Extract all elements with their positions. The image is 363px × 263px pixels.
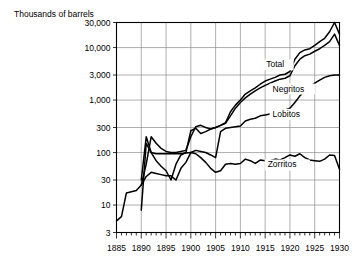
x-tick-label: 1910 (231, 243, 250, 253)
chart-canvas: Thousands of barrels 310301003001,0003,0… (0, 0, 363, 263)
y-tick-label: 10,000 (85, 43, 111, 53)
chart-background (0, 0, 363, 263)
x-tick-label: 1895 (157, 243, 176, 253)
series-label-zorritos: Zorritos (268, 159, 297, 169)
y-tick-label: 3 (106, 228, 111, 238)
x-tick-label: 1925 (305, 243, 324, 253)
x-tick-label: 1905 (206, 243, 225, 253)
x-tick-label: 1885 (107, 243, 126, 253)
chart-axis-title: Thousands of barrels (14, 9, 94, 19)
y-tick-label: 1,000 (89, 95, 111, 105)
series-label-lobitos: Lobitos (273, 109, 300, 119)
x-tick-label: 1930 (330, 243, 349, 253)
x-tick-label: 1920 (280, 243, 299, 253)
series-label-total: Total (266, 59, 284, 69)
y-tick-label: 30,000 (85, 18, 111, 28)
y-tick-label: 100 (96, 148, 110, 158)
series-label-negritos: Negritos (273, 84, 305, 94)
y-tick-label: 10 (101, 200, 111, 210)
y-tick-label: 30 (101, 175, 111, 185)
oil-production-chart: Thousands of barrels 310301003001,0003,0… (0, 0, 363, 263)
y-tick-label: 300 (96, 123, 110, 133)
x-tick-label: 1900 (181, 243, 200, 253)
x-tick-label: 1915 (256, 243, 275, 253)
y-tick-label: 3,000 (89, 70, 111, 80)
x-tick-label: 1890 (132, 243, 151, 253)
